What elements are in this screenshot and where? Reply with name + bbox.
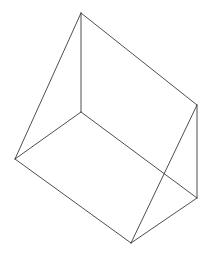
edge-apex-right-upper (81, 13, 197, 105)
figure-canvas (0, 0, 209, 256)
triangular-prism-drawing (0, 0, 209, 256)
edge-bottom-right-lower (131, 198, 197, 243)
edge-apex-left (15, 13, 81, 159)
prism-edges (15, 13, 197, 243)
edge-bottom-right-upper (131, 105, 197, 243)
face-top-left (81, 13, 197, 198)
prism-faces (15, 13, 197, 243)
edge-center-left (15, 112, 81, 159)
edge-center-right-lower (81, 112, 197, 198)
edge-left-bottom (15, 159, 131, 243)
